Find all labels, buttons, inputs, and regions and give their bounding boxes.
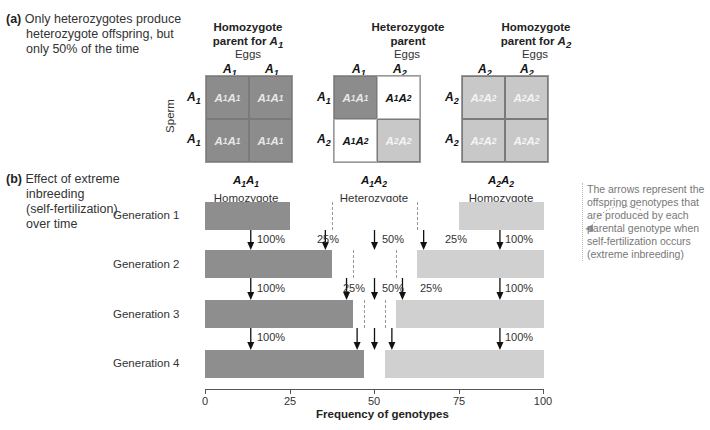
square-2-title: Heterozygote parent — [348, 20, 468, 48]
note-line: self-fertilization occurs — [587, 235, 704, 248]
part-b-line-3: (self-fertilization) — [6, 202, 120, 217]
tick-label: 25 — [275, 395, 305, 407]
cell-a1a1: A1A1 — [206, 76, 249, 119]
cell-a2a2: A2A2 — [505, 76, 548, 119]
arrow-note: The arrows represent the offspring genot… — [582, 183, 704, 261]
square-3-eggs-label: Eggs — [490, 48, 580, 60]
tick — [205, 389, 206, 394]
divider — [353, 250, 354, 278]
tick — [290, 389, 291, 394]
segment-a2a2 — [417, 250, 544, 278]
square-1-sperm-allele-2: A1 — [187, 132, 201, 148]
part-b-line-2: inbreeding — [6, 187, 120, 202]
segment-a1a2 — [353, 300, 395, 328]
segment-a1a2 — [332, 250, 417, 278]
part-b-line-4: over time — [6, 217, 120, 232]
column-head-a1a1: A1A1 Homozygote — [196, 173, 296, 205]
part-a-line-2: heterozygote offspring, but — [6, 27, 181, 42]
column-head-a2a2: A2A2 Homozygote — [451, 173, 551, 205]
square-2-title-line1: Heterozygote — [372, 21, 445, 33]
x-axis-title: Frequency of genotypes — [316, 408, 449, 420]
pct-label: 100% — [505, 233, 533, 245]
cell-a1a1: A1A1 — [249, 76, 292, 119]
tick — [374, 389, 375, 394]
square-3-sperm-allele-1: A2 — [445, 90, 459, 106]
square-3-title-line2: parent for — [501, 35, 555, 47]
divider — [332, 202, 333, 230]
segment-a1a2 — [364, 350, 385, 378]
cell-a2a2: A2A2 — [462, 76, 505, 119]
cell-a1a1: A1A1 — [334, 76, 377, 119]
segment-a1a1 — [205, 300, 353, 328]
generation-2-label: Generation 2 — [113, 258, 180, 270]
pct-label: 100% — [505, 331, 533, 343]
pct-label: 50% — [382, 233, 404, 245]
square-1-title-line1: Homozygote — [214, 21, 283, 33]
pct-label: 50% — [382, 282, 404, 294]
note-line: (extreme inbreeding) — [587, 248, 704, 261]
square-1-title-allele: A — [270, 35, 278, 47]
generation-bar — [205, 202, 544, 230]
square-2-title-line2: parent — [390, 35, 425, 47]
segment-a1a1 — [205, 202, 290, 230]
divider — [364, 300, 365, 328]
part-a-line-3: only 50% of the time — [6, 42, 181, 57]
part-b-letter: (b) — [6, 172, 22, 186]
pct-label: 25% — [420, 282, 442, 294]
segment-a1a1 — [205, 350, 364, 378]
segment-a2a2 — [385, 350, 544, 378]
generation-1-label: Generation 1 — [113, 209, 180, 221]
part-a-line-1: Only heterozygotes produce — [25, 12, 181, 26]
pct-label: 100% — [257, 331, 285, 343]
square-2-eggs-label: Eggs — [362, 48, 452, 60]
segment-a1a1 — [205, 250, 332, 278]
cell-a2a2: A2A2 — [377, 119, 420, 162]
tick — [459, 389, 460, 394]
generation-bar — [205, 250, 544, 278]
pct-label: 25% — [343, 282, 365, 294]
generation-bar — [205, 300, 544, 328]
segment-a2a2 — [396, 300, 544, 328]
tick — [543, 389, 544, 394]
pct-label: 100% — [505, 282, 533, 294]
pct-label: 25% — [445, 233, 467, 245]
square-1-sperm-allele-1: A1 — [187, 90, 201, 106]
part-b-line-1: Effect of extreme — [25, 172, 119, 186]
note-line: The arrows represent the — [587, 183, 704, 196]
cell-a1a2: A1A2 — [334, 119, 377, 162]
tick-label: 100 — [528, 395, 558, 407]
note-line: are produced by each — [587, 209, 704, 222]
punnett-square-3: A2A2 A2A2 A2A2 A2A2 — [461, 75, 549, 163]
tick-label: 0 — [190, 395, 220, 407]
cell-a1a1: A1A1 — [206, 119, 249, 162]
pct-label: 100% — [257, 233, 285, 245]
cell-a2a2: A2A2 — [462, 119, 505, 162]
generation-4-label: Generation 4 — [113, 357, 180, 369]
generation-3-label: Generation 3 — [113, 308, 180, 320]
part-a-letter: (a) — [6, 12, 21, 26]
square-3-sperm-allele-2: A2 — [445, 132, 459, 148]
part-b-caption: (b) Effect of extreme inbreeding (self-f… — [6, 172, 120, 232]
note-line: offspring genotypes that — [587, 196, 704, 209]
cell-a1a2: A1A2 — [377, 76, 420, 119]
note-line: parental genotype when — [587, 222, 704, 235]
square-1-title-line2: parent for — [213, 35, 267, 47]
sperm-label: Sperm — [164, 91, 176, 141]
column-head-a1a2: A1A2 Heterozygote — [324, 173, 424, 205]
segment-a1a2 — [290, 202, 460, 230]
tick-label: 50 — [359, 395, 389, 407]
square-3-title-line1: Homozygote — [502, 21, 571, 33]
tick-label: 75 — [444, 395, 474, 407]
divider — [417, 202, 418, 230]
punnett-square-1: A1A1 A1A1 A1A1 A1A1 — [205, 75, 293, 163]
divider — [396, 250, 397, 278]
pct-label: 100% — [257, 282, 285, 294]
cell-a1a1: A1A1 — [249, 119, 292, 162]
part-a-caption: (a) Only heterozygotes produce heterozyg… — [6, 12, 181, 57]
square-2-sperm-allele-1: A1 — [317, 90, 331, 106]
segment-a2a2 — [459, 202, 544, 230]
square-3-title-allele: A — [558, 35, 566, 47]
square-2-sperm-allele-2: A2 — [317, 132, 331, 148]
divider — [385, 300, 386, 328]
generation-bar — [205, 350, 544, 378]
